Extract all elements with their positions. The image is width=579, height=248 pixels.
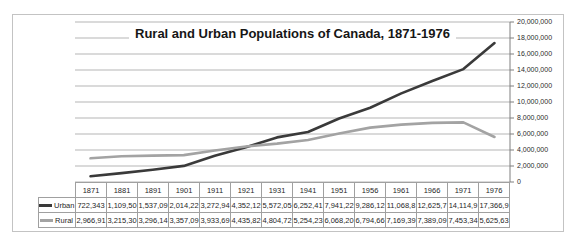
year-header-cell: 1956 <box>355 183 386 198</box>
year-header-cell: 1871 <box>76 183 107 198</box>
y-axis-tick-label: 4,000,000 <box>517 146 561 154</box>
year-header-cell: 1966 <box>417 183 448 198</box>
rural-series-line <box>91 122 495 158</box>
legend-cell-rural: Rural <box>39 213 76 228</box>
table-cell: 5,625,63 <box>479 213 510 228</box>
year-header-cell: 1941 <box>293 183 324 198</box>
data-table: 1871188118911901191119211931194119511956… <box>38 182 510 228</box>
year-header-cell: 1961 <box>386 183 417 198</box>
table-cell: 2,966,91 <box>76 213 107 228</box>
y-axis-tick-label: 6,000,000 <box>517 130 561 138</box>
table-cell: 6,252,41 <box>293 198 324 213</box>
table-cell: 4,435,82 <box>231 213 262 228</box>
table-cell: 5,254,23 <box>293 213 324 228</box>
chart-frame: Rural and Urban Populations of Canada, 1… <box>12 14 564 232</box>
y-axis-tick-label: 20,000,000 <box>517 18 561 26</box>
table-corner-cell <box>39 183 76 198</box>
y-axis-tick-label: 0 <box>517 178 561 186</box>
year-header-cell: 1891 <box>138 183 169 198</box>
table-cell: 6,068,20 <box>324 213 355 228</box>
table-cell: 7,453,34 <box>448 213 479 228</box>
y-axis-tick-label: 10,000,000 <box>517 98 561 106</box>
table-cell: 722,343 <box>76 198 107 213</box>
table-cell: 7,941,22 <box>324 198 355 213</box>
table-cell: 14,114,9 <box>448 198 479 213</box>
year-header-cell: 1921 <box>231 183 262 198</box>
table-cell: 1,109,50 <box>107 198 138 213</box>
y-axis-tick-label: 18,000,000 <box>517 34 561 42</box>
table-cell: 3,215,30 <box>107 213 138 228</box>
year-header-cell: 1971 <box>448 183 479 198</box>
table-cell: 2,014,22 <box>169 198 200 213</box>
table-cell: 3,296,14 <box>138 213 169 228</box>
table-cell: 1,537,09 <box>138 198 169 213</box>
rural-legend-line-icon <box>40 219 53 222</box>
year-header-cell: 1976 <box>479 183 510 198</box>
table-cell: 6,794,66 <box>355 213 386 228</box>
table-cell: 12,625,7 <box>417 198 448 213</box>
year-header-cell: 1911 <box>200 183 231 198</box>
y-axis-tick-label: 12,000,000 <box>517 82 561 90</box>
year-header-cell: 1931 <box>262 183 293 198</box>
legend-label: Urban <box>54 201 74 210</box>
table-cell: 5,572,05 <box>262 198 293 213</box>
y-axis-tick-label: 14,000,000 <box>517 66 561 74</box>
table-cell: 7,169,39 <box>386 213 417 228</box>
legend-cell-urban: Urban <box>39 198 76 213</box>
table-cell: 3,357,09 <box>169 213 200 228</box>
table-cell: 3,272,94 <box>200 198 231 213</box>
chart-screenshot: { "chart_data": { "type": "line", "title… <box>0 0 579 248</box>
y-axis-tick-label: 2,000,000 <box>517 162 561 170</box>
table-cell: 3,933,69 <box>200 213 231 228</box>
table-cell: 4,804,72 <box>262 213 293 228</box>
legend-label: Rural <box>55 216 73 225</box>
table-cell: 7,389,09 <box>417 213 448 228</box>
year-header-cell: 1881 <box>107 183 138 198</box>
urban-legend-line-icon <box>39 204 52 207</box>
table-cell: 9,286,12 <box>355 198 386 213</box>
year-header-cell: 1901 <box>169 183 200 198</box>
y-axis-tick-label: 16,000,000 <box>517 50 561 58</box>
y-axis-tick-label: 8,000,000 <box>517 114 561 122</box>
table-cell: 4,352,12 <box>231 198 262 213</box>
year-header-cell: 1951 <box>324 183 355 198</box>
table-cell: 17,366,9 <box>479 198 510 213</box>
table-cell: 11,068,8 <box>386 198 417 213</box>
